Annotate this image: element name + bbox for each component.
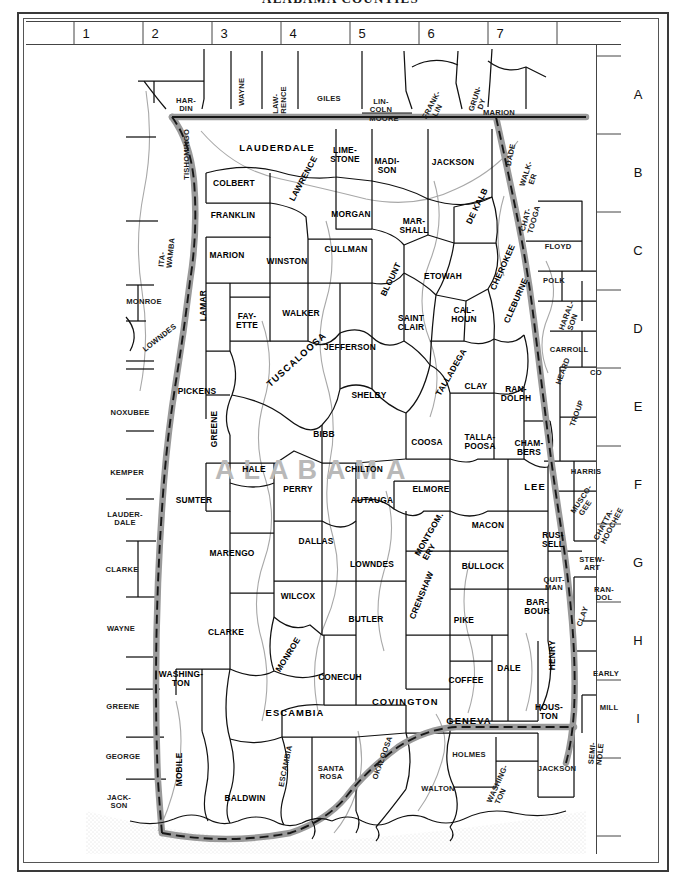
- neighbor-county-label-carroll: CARROLL: [545, 346, 593, 354]
- row-index-H: H: [628, 633, 648, 648]
- column-index-1: 1: [74, 26, 98, 41]
- county-label-bullock: BULLOCK: [460, 562, 506, 571]
- column-index-3: 3: [212, 26, 236, 41]
- county-label-rus-sell: RUS- SELL: [536, 531, 570, 548]
- county-label-lime-stone: LIME- STONE: [323, 146, 367, 163]
- row-index-G: G: [628, 555, 648, 570]
- county-label-henry: HENRY: [548, 656, 557, 670]
- neighbor-county-label-lin-coln: LIN- COLN: [366, 98, 396, 113]
- neighbor-county-label-stew-art: STEW- ART: [576, 556, 608, 571]
- neighbor-county-label-polk: POLK: [538, 277, 570, 285]
- map-page: ALABAMA COUNTIES: [0, 0, 681, 883]
- county-label-coffee: COFFEE: [445, 676, 487, 685]
- county-label-autauga: AUTAUGA: [347, 496, 397, 505]
- neighbor-county-label-quit-man: QUIT- MAN: [541, 576, 567, 591]
- row-index-B: B: [628, 165, 648, 180]
- county-label-morgan: MORGAN: [326, 210, 376, 219]
- column-index-5: 5: [350, 26, 374, 41]
- county-label-butler: BUTLER: [345, 615, 387, 624]
- neighbor-county-label-lauder-dale: LAUDER- DALE: [103, 511, 147, 526]
- neighbor-county-label-greene: GREENE: [102, 703, 144, 711]
- county-label-dallas: DALLAS: [293, 537, 339, 546]
- county-label-mobile: MOBILE: [175, 772, 184, 786]
- neighbor-county-label-giles: GILES: [310, 95, 348, 103]
- neighbor-county-label-tishomingo: TISHOMINGO: [183, 164, 191, 180]
- column-index-2: 2: [143, 26, 167, 41]
- row-index-C: C: [628, 243, 648, 258]
- county-label-lauderdale: LAUDERDALE: [229, 143, 325, 153]
- county-label-sumter: SUMTER: [168, 496, 220, 505]
- neighbor-county-label-jackson: JACKSON: [533, 765, 581, 773]
- county-label-fay-ette: FAY- ETTE: [230, 312, 264, 329]
- county-label-walker: WALKER: [277, 309, 325, 318]
- county-label-jefferson: JEFFERSON: [318, 343, 382, 352]
- neighbor-county-label-ita-wamba: ITA- WAMBA: [157, 251, 174, 269]
- county-label-clay: CLAY: [460, 382, 492, 391]
- county-label-pickens: PICKENS: [173, 387, 221, 396]
- neighbor-county-label-marion: MARION: [477, 109, 521, 117]
- county-label-madi-son: MADI- SON: [366, 157, 408, 174]
- county-label-washing-ton: WASHING- TON: [156, 670, 206, 687]
- neighbor-county-label-co: CO: [588, 369, 604, 377]
- neighbor-county-label-holmes: HOLMES: [448, 751, 490, 759]
- county-label-dale: DALE: [493, 664, 525, 673]
- neighbor-county-label-noxubee: NOXUBEE: [105, 409, 155, 417]
- county-label-covington: COVINGTON: [372, 697, 430, 707]
- index-bar-right: [596, 44, 621, 854]
- county-label-clarke: CLARKE: [204, 628, 248, 637]
- county-label-bar-bour: BAR- BOUR: [519, 598, 555, 615]
- county-label-greene: GREENE: [210, 433, 219, 447]
- county-label-hale: HALE: [237, 465, 271, 474]
- county-label-escambia: ESCAMBIA: [262, 708, 328, 718]
- county-label-cham-bers: CHAM- BERS: [510, 439, 548, 456]
- county-label-marengo: MARENGO: [206, 549, 258, 558]
- county-label-bibb: BIBB: [308, 430, 340, 439]
- county-label-colbert: COLBERT: [205, 179, 263, 188]
- neighbor-county-label-har-din: HAR- DIN: [169, 97, 203, 112]
- neighbor-county-label-semi-nole: SEMI- NOLE: [587, 746, 604, 766]
- index-bar-top: [26, 21, 621, 45]
- county-label-lowndes: LOWNDES: [347, 560, 397, 569]
- county-label-wilcox: WILCOX: [275, 592, 321, 601]
- county-label-elmore: ELMORE: [409, 485, 453, 494]
- neighbor-county-label-law-rence: LAW- RENCE: [272, 98, 287, 114]
- neighbor-county-label-clarke: CLARKE: [101, 566, 143, 574]
- county-label-conecuh: CONECUH: [314, 673, 366, 682]
- county-label-winston: WINSTON: [262, 257, 312, 266]
- neighbor-county-label-mill: MILL: [595, 704, 623, 712]
- row-index-A: A: [628, 87, 648, 102]
- county-label-cal-houn: CAL- HOUN: [446, 306, 482, 323]
- row-index-F: F: [628, 477, 648, 492]
- page-title: ALABAMA COUNTIES: [0, 0, 681, 7]
- column-index-6: 6: [419, 26, 443, 41]
- county-label-geneva: GENEVA: [441, 716, 497, 726]
- county-label-chilton: CHILTON: [339, 465, 389, 474]
- neighbor-county-label-ran-dol: RAN- DOL: [590, 586, 618, 601]
- county-label-baldwin: BALDWIN: [219, 794, 271, 803]
- neighbor-county-label-walton: WALTON: [416, 785, 460, 793]
- neighbor-county-label-kemper: KEMPER: [104, 469, 150, 477]
- neighbor-county-label-floyd: FLOYD: [539, 243, 577, 251]
- county-label-saint-clair: SAINT CLAIR: [392, 314, 430, 331]
- neighbor-county-label-monroe: MONROE: [123, 298, 165, 306]
- county-label-etowah: ETOWAH: [419, 272, 467, 281]
- county-label-mar-shall: MAR- SHALL: [393, 217, 435, 234]
- county-label-ran-dolph: RAN- DOLPH: [497, 385, 535, 402]
- county-label-hous-ton: HOUS- TON: [531, 703, 567, 720]
- county-label-marion: MARION: [203, 251, 251, 260]
- neighbor-county-label-moore: MOORE: [367, 115, 401, 123]
- county-label-perry: PERRY: [278, 485, 318, 494]
- neighbor-county-label-george: GEORGE: [102, 753, 144, 761]
- county-label-pike: PIKE: [447, 616, 481, 625]
- county-label-franklin: FRANKLIN: [206, 211, 260, 220]
- county-label-shelby: SHELBY: [345, 391, 393, 400]
- neighbor-county-label-wayne: WAYNE: [100, 625, 142, 633]
- column-index-4: 4: [281, 26, 305, 41]
- county-label-lee: LEE: [518, 482, 552, 492]
- neighbor-county-label-santa-rosa: SANTA ROSA: [310, 765, 352, 780]
- county-label-talla-poosa: TALLA- POOSA: [459, 433, 501, 450]
- county-label-lamar: LAMAR: [199, 307, 208, 321]
- neighbor-county-label-jack-son: JACK- SON: [102, 794, 136, 809]
- row-index-I: I: [628, 711, 648, 726]
- row-index-E: E: [628, 399, 648, 414]
